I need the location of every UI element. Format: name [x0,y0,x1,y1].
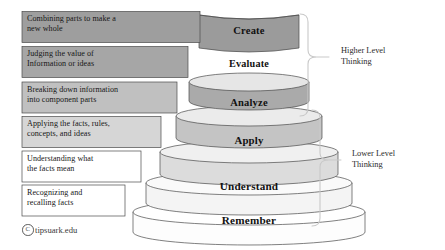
tier-label-remember: Remember [179,214,319,226]
tier-label-analyze: Analyze [189,97,309,108]
tier-label-evaluate: Evaluate [199,58,299,69]
description-apply: Applying the facts, rules, concepts, and… [27,119,160,139]
credit-text: tipsuark.edu [35,225,77,235]
tier-label-understand: Understand [179,180,319,192]
description-evaluate: Judging the value of Information or idea… [27,49,187,69]
credit-line: C tipsuark.edu [22,224,77,236]
bracket-label-higher-level: Higher Level Thinking [341,45,441,67]
description-analyze: Breaking down information into component… [27,85,176,105]
description-understand: Understanding what the facts mean [27,154,140,174]
description-create: Combining parts to make a new whole [27,14,199,34]
blooms-taxonomy-diagram: Combining parts to make a new whole Judg… [0,0,445,250]
tier-label-apply: Apply [189,134,309,146]
description-remember: Recognizing and recalling facts [27,188,124,208]
bracket-label-lower-level: Lower Level Thinking [352,148,445,170]
copyright-icon: C [22,224,34,236]
tier-label-create: Create [209,25,289,36]
